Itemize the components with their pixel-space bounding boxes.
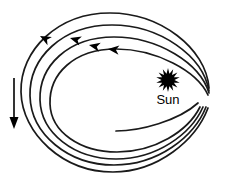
orbit-direction-arrowhead-4-icon bbox=[108, 46, 119, 55]
sun-starburst-icon bbox=[156, 68, 179, 92]
spiral-orbit-diagram: Sun bbox=[0, 0, 225, 192]
down-arrow-icon bbox=[10, 117, 19, 129]
sun-label: Sun bbox=[146, 92, 190, 107]
orbit-canvas bbox=[0, 0, 225, 192]
drift-arrow-group bbox=[10, 78, 19, 129]
